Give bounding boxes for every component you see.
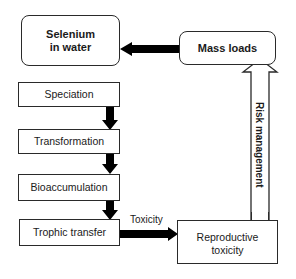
node-transformation-label: Transformation [34, 135, 104, 148]
node-speciation: Speciation [18, 82, 120, 107]
node-bioaccumulation-label: Bioaccumulation [30, 181, 107, 194]
arrow-speciation-to-transformation [102, 104, 118, 130]
node-mass-loads: Mass loads [179, 31, 276, 65]
node-selenium-line2: in water [50, 41, 92, 54]
node-reproductive-line1: Reproductive [197, 231, 259, 244]
node-transformation: Transformation [18, 129, 120, 154]
risk-arrow-shaft-base [251, 212, 269, 221]
edge-label-risk-management: Risk management [254, 102, 265, 188]
arrow-bioaccumulation-to-trophic [102, 198, 118, 220]
node-trophic-transfer: Trophic transfer [19, 219, 120, 246]
edge-label-toxicity: Toxicity [130, 214, 163, 225]
arrow-transformation-to-bioaccumulation [102, 151, 118, 174]
node-bioaccumulation: Bioaccumulation [18, 174, 120, 201]
arrow-massloads-to-selenium [120, 42, 187, 56]
node-trophic-transfer-label: Trophic transfer [33, 226, 106, 239]
node-mass-loads-label: Mass loads [198, 42, 257, 55]
node-selenium-line1: Selenium [46, 28, 95, 41]
arrow-trophic-to-reproductive [120, 227, 178, 241]
node-selenium-in-water: Selenium in water [21, 15, 120, 66]
node-speciation-label: Speciation [44, 88, 93, 101]
node-reproductive-line2: toxicity [211, 244, 243, 257]
node-reproductive-toxicity: Reproductive toxicity [177, 220, 278, 264]
